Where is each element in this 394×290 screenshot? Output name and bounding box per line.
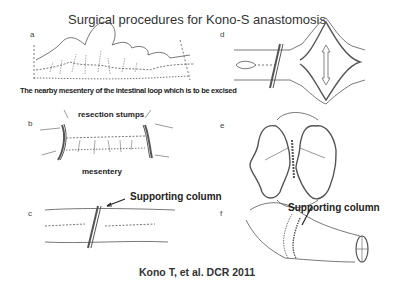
panel-b-label-resection-stumps: resection stumps [78,110,144,119]
panel-b-letter: b [28,119,32,128]
panel-a-letter: a [30,30,34,39]
panel-e-letter: e [220,121,224,130]
panel-c-drawing [45,199,175,248]
diagram-artwork [0,0,394,290]
panel-f-letter: f [220,209,222,218]
citation: Kono T, et al. DCR 2011 [0,266,394,278]
panel-e-drawing [250,113,336,208]
panel-c-letter: c [28,209,32,218]
panel-a-caption: The nearby mesentery of the intestinal l… [20,86,237,95]
panel-d-drawing [234,18,365,104]
panel-a-drawing [34,22,195,80]
panel-c-label-supporting-column: Supporting column [130,191,222,202]
panel-f-label-supporting-column: Supporting column [288,202,380,213]
panel-b-label-mesentery: mesentery [82,167,122,176]
panel-d-letter: d [220,30,224,39]
